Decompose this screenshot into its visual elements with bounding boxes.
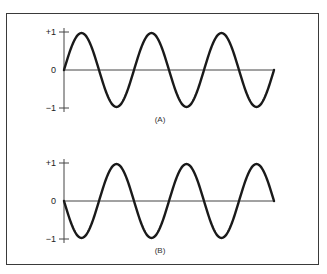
tick-label-minus1-b: −1: [46, 234, 56, 244]
tick-label-zero-b: 0: [51, 196, 56, 206]
panel-b: +1 0 −1 (B): [46, 158, 274, 255]
tick-label-zero-a: 0: [51, 65, 56, 75]
panel-label-b: (B): [155, 246, 166, 255]
panel-label-a: (A): [155, 115, 166, 124]
tick-label-minus1-a: −1: [46, 103, 56, 113]
panel-a: +1 0 −1 (A): [46, 27, 274, 124]
waveform-diagram: +1 0 −1 (A) +1 0 −1 (B): [0, 0, 327, 274]
tick-label-plus1-b: +1: [46, 158, 56, 168]
tick-label-plus1-a: +1: [46, 27, 56, 37]
